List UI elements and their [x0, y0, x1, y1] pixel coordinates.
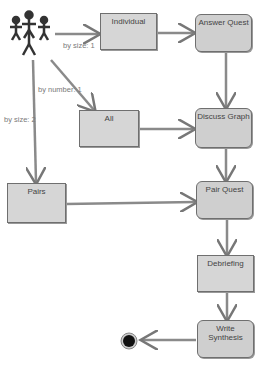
edge-label-by-size-2: by size: 2 [4, 115, 36, 124]
edge-label-by-number-1: by number: 1 [38, 85, 82, 94]
actor-icon [10, 12, 50, 56]
node-debriefing[interactable]: Debriefing [197, 255, 254, 292]
node-discuss-graph[interactable]: Discuss Graph [195, 108, 252, 148]
node-write-synthesis[interactable]: Write Synthesis [197, 320, 254, 358]
end-node-icon [121, 333, 137, 349]
node-all[interactable]: All [79, 110, 139, 147]
node-individual[interactable]: Individual [100, 13, 157, 50]
node-answer-quest[interactable]: Answer Quest [195, 14, 252, 52]
node-pairs[interactable]: Pairs [7, 183, 66, 223]
node-pair-quest[interactable]: Pair Quest [196, 181, 253, 219]
edge-label-by-size-1: by size: 1 [63, 41, 95, 50]
